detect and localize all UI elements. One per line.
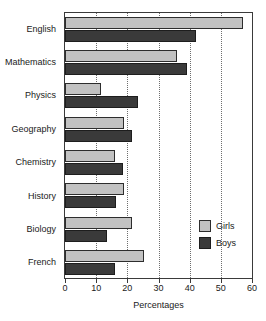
legend-item-girls: Girls [199, 219, 247, 236]
x-axis-ticks: 0102030405060 [64, 279, 253, 285]
bar-boys [65, 130, 132, 142]
bar-girls [65, 183, 124, 195]
bar-group [65, 80, 252, 113]
bar-boys [65, 230, 107, 242]
bar-girls [65, 150, 115, 162]
bar-girls [65, 217, 132, 229]
bar-group [65, 113, 252, 146]
x-axis-tick-label: 30 [153, 283, 163, 294]
x-axis-title: Percentages [64, 300, 253, 311]
boys-swatch-icon [199, 237, 211, 249]
bar-chart: EnglishMathematicsPhysicsGeographyChemis… [0, 0, 266, 321]
y-axis-label: French [0, 257, 56, 267]
bar-boys [65, 30, 196, 42]
bar-girls [65, 117, 124, 129]
y-axis-label: Chemistry [0, 157, 56, 167]
y-axis-label: Geography [0, 124, 56, 134]
y-axis-label: History [0, 191, 56, 201]
bar-boys [65, 63, 187, 75]
legend-label-boys: Boys [216, 236, 236, 250]
y-axis-label: Physics [0, 90, 56, 100]
bar-boys [65, 96, 138, 108]
bar-group [65, 180, 252, 213]
y-axis-label: Biology [0, 224, 56, 234]
bar-girls [65, 17, 243, 29]
bar-boys [65, 163, 123, 175]
y-axis-label: Mathematics [0, 57, 56, 67]
bar-girls [65, 83, 101, 95]
y-axis-label: English [0, 24, 56, 34]
x-axis-tick-label: 0 [62, 283, 67, 294]
chart-legend: Girls Boys [199, 219, 247, 253]
x-axis-tick-label: 60 [247, 283, 257, 294]
bar-girls [65, 50, 177, 62]
x-axis-tick-label: 20 [122, 283, 132, 294]
girls-swatch-icon [199, 220, 211, 232]
x-axis-tick-label: 40 [185, 283, 195, 294]
legend-item-boys: Boys [199, 236, 247, 253]
bar-boys [65, 196, 116, 208]
x-axis-tick-label: 50 [216, 283, 226, 294]
x-axis-tick-label: 10 [91, 283, 101, 294]
legend-label-girls: Girls [216, 219, 235, 233]
bar-group [65, 147, 252, 180]
bar-group [65, 13, 252, 46]
y-axis-category-labels: EnglishMathematicsPhysicsGeographyChemis… [0, 12, 60, 279]
bar-girls [65, 250, 144, 262]
bar-group [65, 46, 252, 79]
bar-boys [65, 263, 115, 275]
